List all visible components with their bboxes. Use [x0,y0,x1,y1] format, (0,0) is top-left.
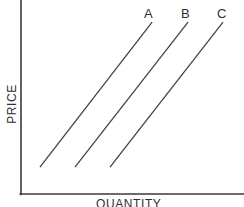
plot-area [0,0,244,207]
curve-label-c: C [217,7,227,20]
y-axis-label: PRICE [6,68,18,140]
supply-curve-b [75,22,188,167]
supply-curve-a [40,22,152,167]
curve-label-b: B [181,7,190,20]
curve-group [40,22,223,167]
supply-curve-c [110,22,223,167]
curve-label-a: A [144,7,153,20]
x-axis-label: QUANTITY [96,198,161,207]
supply-curve-shift-diagram: A B C PRICE QUANTITY [0,0,244,207]
axis-group [20,0,244,195]
